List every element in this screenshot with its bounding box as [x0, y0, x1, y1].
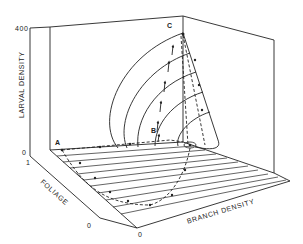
trajectory-dots: [61, 33, 204, 207]
floor-plane: [30, 142, 290, 228]
point-b-label: B: [151, 127, 157, 134]
trajectory: [62, 35, 205, 205]
z-tick-max: 400: [15, 25, 28, 32]
z-axis-label: LARVAL DENSITY: [18, 51, 25, 118]
point-a-label: A: [55, 139, 61, 146]
z-tick-min: 0: [22, 149, 27, 156]
phase-space-diagram: [0, 0, 303, 244]
point-c-label: C: [167, 22, 173, 29]
foliage-tick-max: 1: [26, 159, 31, 166]
foliage-tick-min: 0: [87, 222, 92, 229]
branch-tick-min: 0: [138, 231, 143, 238]
